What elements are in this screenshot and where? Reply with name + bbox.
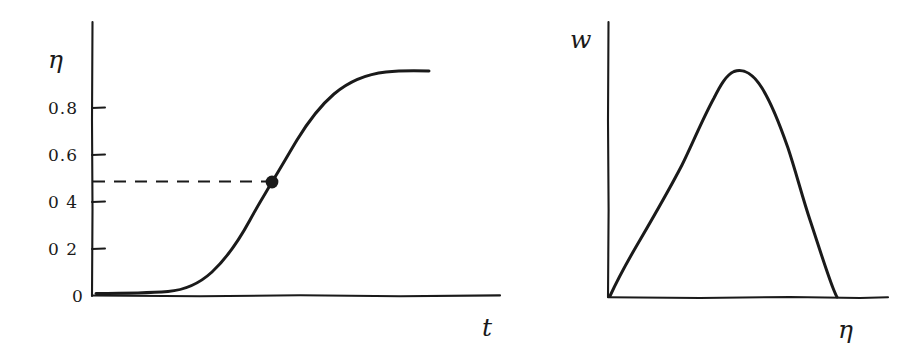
right-chart-rate-curve (610, 71, 837, 297)
left-chart-tick-label-0-4: 0 4 (48, 192, 78, 212)
left-chart-tick-label-0-8: 0.8 (48, 98, 78, 118)
right-chart-panel: w η (570, 22, 888, 344)
left-chart-tick-label-0-6: 0.6 (48, 145, 78, 165)
figure-canvas: 0.8 0.6 0 4 0 2 0 η t w η (0, 0, 918, 362)
right-chart-y-axis (608, 22, 609, 297)
right-chart-x-axis (608, 297, 888, 298)
right-chart-y-axis-label: w (570, 25, 591, 54)
left-chart-tick-label-0-2: 0 2 (48, 239, 78, 259)
right-chart-x-axis-label: η (838, 315, 853, 344)
left-chart-tick-label-0: 0 (72, 286, 84, 306)
left-chart-x-axis (92, 295, 500, 296)
figure-container: 0.8 0.6 0 4 0 2 0 η t w η (0, 0, 918, 362)
left-chart-panel: 0.8 0.6 0 4 0 2 0 η t (48, 22, 500, 342)
left-chart-y-axis (92, 22, 93, 296)
left-chart-inflection-point-marker (266, 176, 279, 189)
left-chart-y-ticks (92, 108, 105, 249)
left-chart-y-axis-label: η (48, 45, 63, 74)
left-chart-x-axis-label: t (482, 313, 493, 342)
